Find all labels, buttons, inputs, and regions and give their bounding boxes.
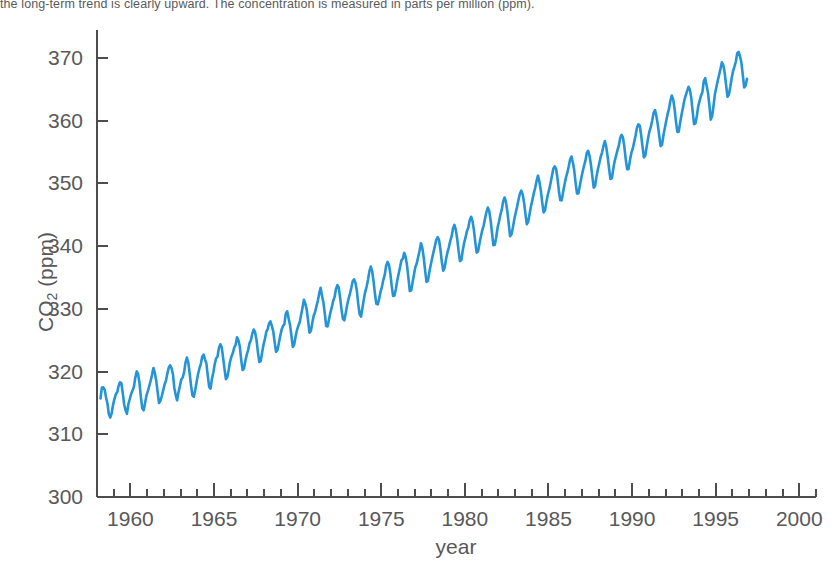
x-axis-tick-label: 1970: [274, 507, 321, 531]
chart-ticks: [97, 58, 816, 497]
y-axis-tick-label: 310: [8, 422, 83, 446]
y-axis-tick-label: 300: [8, 485, 83, 509]
chart-canvas: [0, 0, 832, 567]
x-axis-tick-label: 1990: [609, 507, 656, 531]
co2-data-line: [100, 52, 747, 418]
x-axis-tick-label: 1965: [191, 507, 238, 531]
y-axis-label-subscript: 2: [44, 293, 60, 301]
co2-keeling-curve-figure: 300310320330340350360370 196019651970197…: [0, 0, 832, 567]
x-axis-tick-label: 2000: [776, 507, 823, 531]
x-axis-tick-label: 1960: [107, 507, 154, 531]
y-axis-label-main: CO: [34, 301, 57, 333]
y-axis-label: CO2 (ppm): [34, 192, 58, 372]
y-axis-label-unit: (ppm): [34, 232, 57, 293]
x-axis-tick-label: 1985: [525, 507, 572, 531]
x-axis-tick-label: 1995: [692, 507, 739, 531]
x-axis-label: year: [436, 535, 477, 559]
x-axis-tick-label: 1980: [442, 507, 489, 531]
y-axis-tick-label: 360: [8, 109, 83, 133]
y-axis-tick-label: 370: [8, 46, 83, 70]
x-axis-tick-label: 1975: [358, 507, 405, 531]
